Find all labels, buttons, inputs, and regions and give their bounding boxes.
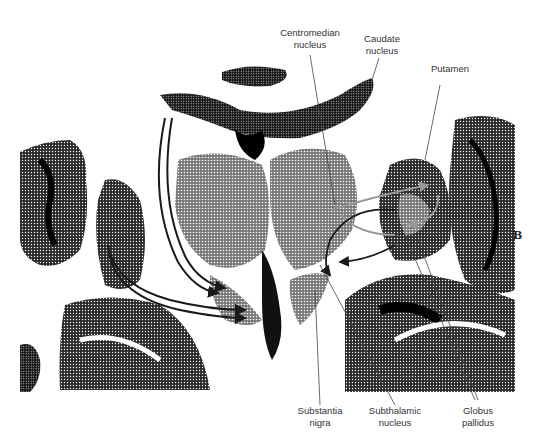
label-subthalamic-nucleus: Subthalamic nucleus	[355, 405, 435, 429]
label-globus-pallidus: Globus pallidus	[448, 405, 508, 429]
label-substantia-nigra: Substantia nigra	[285, 405, 355, 429]
label-centromedian-nucleus: Centromedian nucleus	[265, 27, 355, 51]
label-putamen: Putamen	[420, 63, 480, 75]
label-caudate-nucleus: Caudate nucleus	[352, 33, 412, 57]
leader-caudate	[372, 58, 379, 80]
tissue-section	[20, 66, 515, 392]
brain-section-figure: Centromedian nucleus Caudate nucleus Put…	[0, 0, 539, 441]
panel-letter: B	[513, 229, 522, 242]
leader-substantia-nigra	[315, 290, 320, 405]
leader-putamen	[425, 85, 440, 160]
